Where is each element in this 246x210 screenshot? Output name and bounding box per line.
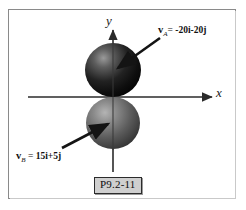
vector-b-label: vB = 15i+5j [16, 150, 61, 165]
vector-a-expression: -20i-20j [175, 25, 206, 35]
y-axis-label: y [106, 14, 112, 27]
vector-a-label: vA= -20i-20j [158, 24, 206, 39]
vector-b-subscript: B [21, 156, 25, 164]
physics-figure: y x vA= -20i-20j vB = 15i+5j P9.2-11 [0, 0, 246, 210]
vector-a-equals: = [168, 25, 173, 35]
vector-b-equals: = [28, 151, 33, 161]
x-axis-label: x [216, 86, 222, 99]
figure-caption-box: P9.2-11 [94, 177, 142, 194]
vector-b-expression: 15i+5j [36, 151, 61, 161]
